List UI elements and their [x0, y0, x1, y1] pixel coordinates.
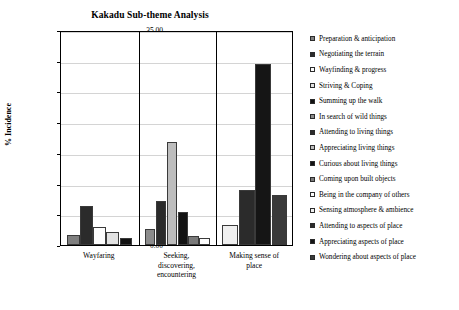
legend-label: Appreciating living things: [319, 144, 394, 152]
x-axis-group-label: Making sense ofplace: [215, 251, 293, 270]
legend-swatch-icon: [310, 52, 315, 57]
legend-item: Appreciating living things: [310, 140, 459, 156]
legend-item: In search of wild things: [310, 109, 459, 125]
legend-swatch-icon: [310, 192, 315, 197]
y-axis-tick-mark: [57, 246, 60, 247]
bar: [222, 225, 238, 245]
bar: [167, 142, 177, 245]
legend-swatch-icon: [310, 255, 315, 260]
legend-swatch-icon: [310, 83, 315, 88]
bar: [239, 190, 255, 245]
legend-item: Coming upon built objects: [310, 171, 459, 187]
legend-item: Wondering about aspects of place: [310, 249, 459, 265]
legend-label: Attending to living things: [319, 128, 393, 136]
legend-item: Wayfinding & progress: [310, 62, 459, 78]
bar: [272, 195, 288, 245]
legend-label: In search of wild things: [319, 113, 387, 121]
bar: [156, 201, 166, 245]
legend-item: Attending to aspects of place: [310, 218, 459, 234]
x-axis-group-label: Wayfaring: [60, 251, 138, 261]
legend-item: Curious about living things: [310, 156, 459, 172]
bar: [106, 232, 119, 245]
bar: [188, 236, 198, 245]
y-axis-title: % Incidence: [4, 80, 13, 170]
legend-swatch-icon: [310, 114, 315, 119]
bar-series-container: [61, 32, 292, 245]
legend-swatch-icon: [310, 177, 315, 182]
legend-swatch-icon: [310, 145, 315, 150]
legend-label: Preparation & anticipation: [319, 35, 395, 43]
bar: [145, 229, 155, 245]
chart-legend: Preparation & anticipationNegotiating th…: [310, 31, 459, 265]
legend-swatch-icon: [310, 161, 315, 166]
bar: [120, 238, 133, 245]
legend-item: Appreciating aspects of place: [310, 234, 459, 250]
legend-item: Striving & Coping: [310, 78, 459, 94]
legend-item: Sensing atmosphere & ambience: [310, 203, 459, 219]
chart-root: Kakadu Sub-theme Analysis % Incidence 0.…: [0, 0, 459, 310]
legend-label: Coming upon built objects: [319, 175, 395, 183]
legend-swatch-icon: [310, 36, 315, 41]
legend-label: Attending to aspects of place: [319, 222, 402, 230]
legend-item: Preparation & anticipation: [310, 31, 459, 47]
legend-label: Sensing atmosphere & ambience: [319, 206, 413, 214]
legend-swatch-icon: [310, 130, 315, 135]
legend-label: Wayfinding & progress: [319, 66, 386, 74]
legend-swatch-icon: [310, 67, 315, 72]
legend-label: Being in the company of others: [319, 191, 409, 199]
legend-swatch-icon: [310, 239, 315, 244]
legend-label: Negotiating the terrain: [319, 50, 384, 58]
legend-item: Being in the company of others: [310, 187, 459, 203]
legend-swatch-icon: [310, 223, 315, 228]
legend-swatch-icon: [310, 208, 315, 213]
bar: [67, 235, 80, 245]
legend-item: Attending to living things: [310, 125, 459, 141]
bar: [199, 238, 209, 245]
bar: [93, 227, 106, 245]
legend-label: Appreciating aspects of place: [319, 238, 404, 246]
legend-label: Curious about living things: [319, 160, 397, 168]
legend-label: Striving & Coping: [319, 82, 373, 90]
bar: [255, 64, 271, 245]
legend-item: Summing up the walk: [310, 93, 459, 109]
bar: [178, 212, 188, 245]
legend-label: Summing up the walk: [319, 97, 382, 105]
plot-area: [60, 31, 293, 246]
legend-item: Negotiating the terrain: [310, 47, 459, 63]
x-axis-group-label: Seeking,discovering,encountering: [138, 251, 216, 280]
chart-title: Kakadu Sub-theme Analysis: [0, 10, 300, 20]
legend-swatch-icon: [310, 99, 315, 104]
bar: [80, 206, 93, 245]
legend-label: Wondering about aspects of place: [319, 253, 416, 261]
